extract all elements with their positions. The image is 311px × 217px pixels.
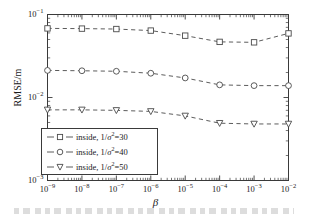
y-axis-label: RMSE/m [12, 48, 23, 128]
data-point-marker [286, 83, 292, 89]
legend-marker-triangle-down-icon [46, 161, 74, 173]
x-tick-label: 10−6 [134, 184, 168, 194]
caption-fragment [14, 208, 294, 214]
legend-item-3: inside, 1/σ2=50 [42, 160, 157, 174]
data-point-marker [285, 121, 291, 127]
series-3 [44, 107, 291, 127]
y-tick-label: 10−1 [10, 9, 44, 19]
x-tick-label: 10−2 [272, 184, 306, 194]
legend-glyph [57, 134, 62, 139]
legend-item-1: inside, 1/σ2=30 [42, 130, 157, 144]
data-point-marker [251, 40, 256, 45]
x-tick-label: 10−5 [168, 184, 202, 194]
legend-label: inside, 1/σ2=50 [76, 162, 128, 172]
data-point-marker [79, 26, 84, 31]
legend-label: inside, 1/σ2=40 [76, 147, 128, 157]
x-tick-label: 10−8 [65, 184, 99, 194]
x-tick-label: 10−4 [203, 184, 237, 194]
data-point-marker [113, 68, 119, 74]
data-point-marker [148, 70, 154, 76]
series-1 [45, 26, 291, 45]
x-tick-label: 10−7 [99, 184, 133, 194]
legend-marker-square-icon [46, 131, 74, 143]
x-axis-label: β [0, 196, 311, 208]
x-tick-label: 10−3 [237, 184, 271, 194]
data-point-marker [45, 68, 51, 74]
data-point-marker [217, 39, 222, 44]
legend-label: inside, 1/σ2=30 [76, 132, 128, 142]
legend-glyph [57, 149, 63, 155]
chart-legend: inside, 1/σ2=30inside, 1/σ2=40inside, 1/… [41, 128, 158, 175]
legend-glyph [57, 164, 63, 170]
data-point-marker [286, 31, 291, 36]
data-point-marker [251, 83, 257, 89]
x-tick-label: 10−9 [31, 184, 65, 194]
data-point-marker [79, 68, 85, 74]
y-tick-label: 10−2 [10, 92, 44, 102]
legend-item-2: inside, 1/σ2=40 [42, 145, 157, 159]
legend-marker-circle-icon [46, 146, 74, 158]
series-2 [45, 68, 292, 89]
data-point-marker [217, 82, 223, 88]
data-point-marker [148, 28, 153, 33]
data-point-marker [183, 33, 188, 38]
data-point-marker [182, 75, 188, 81]
chart-figure: RMSE/m β 10−110−210−3 10−910−810−710−610… [0, 0, 311, 217]
data-point-marker [45, 26, 50, 31]
data-point-marker [114, 26, 119, 31]
